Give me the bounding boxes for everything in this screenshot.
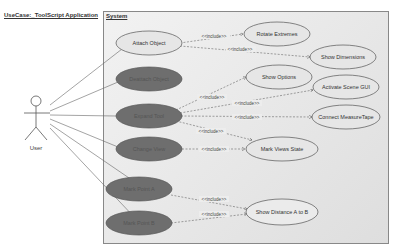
use-case-show-options[interactable]: Show Options xyxy=(246,65,312,89)
use-case-connect-measuretape[interactable]: Connect MeasureTape xyxy=(312,105,380,129)
svg-text:Mark Point B: Mark Point B xyxy=(123,220,155,226)
svg-text:Expand Tool: Expand Tool xyxy=(134,113,164,119)
use-case-mark-point-a[interactable]: Mark Point A xyxy=(106,177,172,201)
svg-text:<<include>>: <<include>> xyxy=(199,129,224,134)
use-case-expand-tool[interactable]: Expand Tool xyxy=(116,104,182,128)
svg-text:Deattach Object: Deattach Object xyxy=(129,76,169,82)
svg-text:<<include>>: <<include>> xyxy=(235,115,260,120)
use-case-diagram: User <<include>> <<include>> <<include>>… xyxy=(0,0,393,252)
use-case-show-distance-a-to-b[interactable]: Show Distance A to B xyxy=(246,199,318,225)
svg-text:<<include>>: <<include>> xyxy=(200,95,225,100)
svg-text:<<include>>: <<include>> xyxy=(202,147,227,152)
svg-text:Rotate Extremes: Rotate Extremes xyxy=(257,31,298,37)
use-case-attach-object[interactable]: Attach Object xyxy=(116,31,182,55)
svg-text:Mark Point A: Mark Point A xyxy=(123,186,155,192)
svg-text:Mark Views State: Mark Views State xyxy=(261,146,304,152)
svg-text:Attach Object: Attach Object xyxy=(132,40,165,46)
use-case-rotate-extremes[interactable]: Rotate Extremes xyxy=(244,22,310,46)
svg-text:<<include>>: <<include>> xyxy=(235,101,260,106)
svg-text:Show Options: Show Options xyxy=(262,74,296,80)
svg-text:Connect MeasureTape: Connect MeasureTape xyxy=(318,114,373,120)
svg-text:<<include>>: <<include>> xyxy=(228,47,253,52)
use-case-mark-views-state[interactable]: Mark Views State xyxy=(246,137,318,161)
svg-text:<<include>>: <<include>> xyxy=(202,212,227,217)
actor-user[interactable]: User xyxy=(24,96,50,151)
svg-text:Activate Scene GUI: Activate Scene GUI xyxy=(322,84,370,90)
svg-text:Change View: Change View xyxy=(133,146,166,152)
use-case-deattach-object[interactable]: Deattach Object xyxy=(116,67,182,91)
svg-text:<<include>>: <<include>> xyxy=(202,197,227,202)
use-case-activate-scene-gui[interactable]: Activate Scene GUI xyxy=(313,75,379,99)
use-case-show-dimensions[interactable]: Show Dimensions xyxy=(310,45,376,69)
include-relations xyxy=(171,34,313,223)
actor-label: User xyxy=(30,145,43,151)
svg-text:Show Dimensions: Show Dimensions xyxy=(321,54,365,60)
use-case-mark-point-b[interactable]: Mark Point B xyxy=(106,211,172,235)
svg-text:Show Distance A to B: Show Distance A to B xyxy=(256,209,309,215)
svg-text:<<include>>: <<include>> xyxy=(202,34,227,39)
include-labels: <<include>> <<include>> <<include>> <<in… xyxy=(196,33,262,217)
use-case-change-view[interactable]: Change View xyxy=(116,137,182,161)
